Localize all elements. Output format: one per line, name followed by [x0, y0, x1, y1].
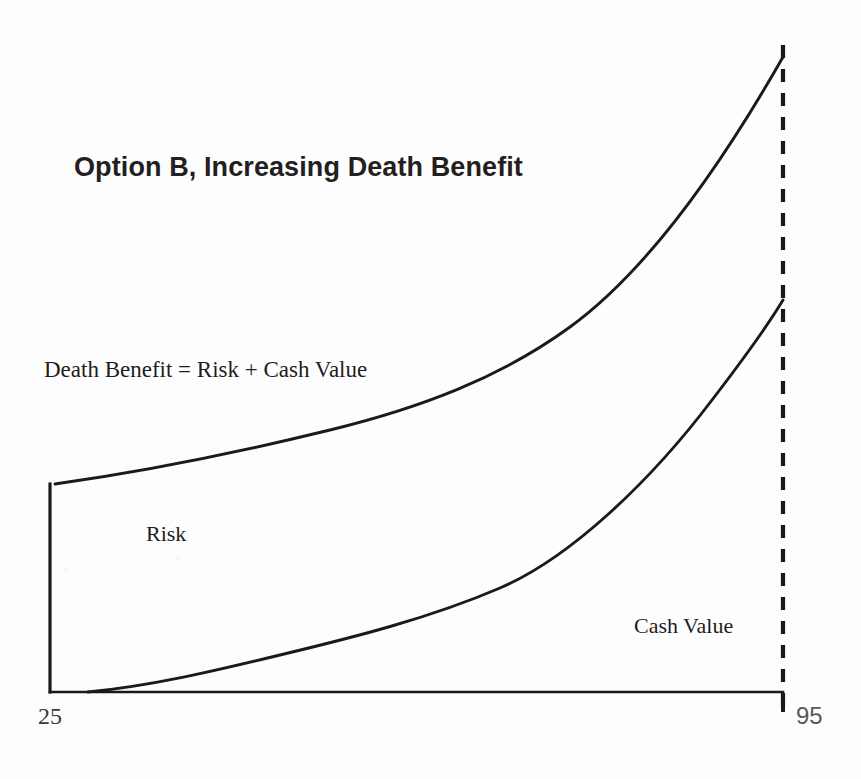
death-benefit-curve	[55, 57, 783, 484]
risk-region-label: Risk	[146, 521, 186, 547]
life-insurance-diagram	[0, 0, 861, 779]
diagram-page: Option B, Increasing Death Benefit Death…	[0, 0, 861, 779]
x-axis-end-tick-label: 95	[796, 702, 823, 730]
death-benefit-equation-label: Death Benefit = Risk + Cash Value	[44, 357, 367, 383]
cash-value-region-label: Cash Value	[634, 613, 733, 639]
x-axis-start-tick-label: 25	[38, 703, 62, 730]
chart-title: Option B, Increasing Death Benefit	[74, 152, 523, 183]
